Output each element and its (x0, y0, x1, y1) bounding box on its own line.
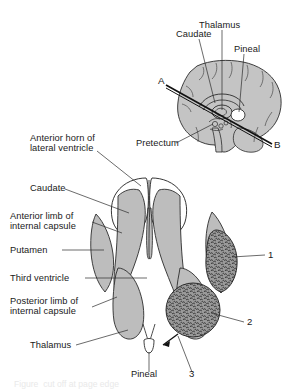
marker-region-1 (206, 230, 237, 292)
leader-anterior-horn (97, 151, 141, 186)
caption-strip: Figure cut off at page edge (0, 380, 297, 391)
label-third-ventricle: Third ventricle (10, 273, 69, 284)
label-thalamus-axial: Thalamus (30, 340, 71, 351)
label-marker-1: 1 (268, 250, 273, 261)
label-putamen: Putamen (10, 245, 48, 256)
label-marker-2: 2 (247, 317, 252, 328)
third-ventricle-second-lobe (149, 208, 152, 259)
label-anterior-horn-line2: lateral ventricle (30, 143, 93, 154)
pineal-recess (144, 339, 154, 354)
label-anterior-limb-line2: internal capsule (10, 221, 76, 232)
label-marker-3: 3 (189, 369, 194, 380)
caption-text: Figure cut off at page edge (14, 380, 119, 389)
anatomy-figure: Thalamus Caudate Pineal Pretectum A B (0, 0, 297, 391)
leader-thalamus-axial (76, 330, 128, 345)
leader-marker-3 (178, 336, 192, 372)
marker-region-3-arrow (163, 334, 178, 347)
label-pineal-axial: Pineal (131, 369, 157, 380)
label-anterior-limb-line1: Anterior limb of (10, 211, 73, 222)
label-posterior-limb-line1: Posterior limb of (10, 296, 78, 307)
marker-region-2 (166, 283, 220, 337)
axial-section-illustration (0, 0, 297, 391)
label-posterior-limb-line2: internal capsule (10, 306, 76, 317)
label-caudate-axial: Caudate (30, 183, 66, 194)
label-anterior-horn-line1: Anterior horn of (30, 133, 95, 144)
thalamus-left (113, 268, 144, 339)
